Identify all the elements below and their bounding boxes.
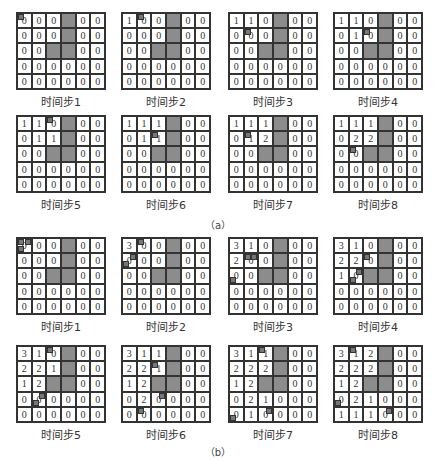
cell-value: 1 [156,118,161,129]
agent-marker-icon [138,14,144,20]
grid-cell: 1 [229,116,244,131]
obstacle-cell [273,146,288,161]
cell-value: 2 [36,363,41,374]
step-label: 时间步3 [228,93,318,109]
cell-value: 0 [234,76,239,87]
cell-value: 0 [368,240,373,251]
grid-cell: 0 [17,59,32,74]
grid-cell: 0 [195,299,210,314]
cell-value: 0 [80,148,85,159]
cell-value: 2 [234,255,239,266]
cell-value: 0 [412,240,417,251]
grid-cell: 0 [407,346,422,361]
grid-cell: 0 [61,59,76,74]
cell-value: 0 [278,179,283,190]
agent-marker-icon [364,29,370,35]
grid-cell: 0 [181,162,196,177]
panel_a-grid-step-5: 11000011000000000000000000 [16,115,106,193]
grid-cell: 0 [407,28,422,43]
cell-value: 0 [185,270,190,281]
cell-value: 0 [397,30,402,41]
agent-marker-icon [18,246,24,252]
grid-cell: 0 [76,361,91,376]
grid-cell: 0 [61,392,76,407]
cell-value: 0 [397,409,402,420]
grid-cell: 0 [244,74,259,89]
grid-cell: 0 [393,131,408,146]
grid-cell: 0 [122,146,137,161]
grid-cell: 2 [32,361,47,376]
agent-marker-icon [33,400,39,406]
cell-value: 0 [234,394,239,405]
cell-value: 2 [248,378,253,389]
grid-cell: 0 [302,13,317,28]
cell-value: 0 [171,394,176,405]
grid-cell: 0 [122,162,137,177]
cell-value: 0 [80,394,85,405]
step-label: 时间步5 [16,196,106,212]
cell-value: 0 [66,61,71,72]
cell-value: 0 [156,409,161,420]
cell-value: 0 [339,45,344,56]
grid-cell: 0 [258,13,273,28]
grid-cell: 2 [229,253,244,268]
grid-cell: 0 [334,74,349,89]
grid-cell: 3 [17,346,32,361]
grid-cell: 0 [288,146,303,161]
cell-value: 0 [383,301,388,312]
cell-value: 1 [141,133,146,144]
cell-value: 0 [171,76,176,87]
grid-cell: 0 [363,162,378,177]
grid-cell: 1 [17,376,32,391]
cell-value: 0 [412,45,417,56]
cell-value: 0 [368,61,373,72]
cell-value: 0 [66,301,71,312]
cell-value: 0 [307,270,312,281]
grid-cell: 0 [349,177,364,192]
grid-cell: 0 [195,177,210,192]
grid-cell: 0 [122,299,137,314]
cell-value: 0 [292,240,297,251]
cell-value: 0 [397,378,402,389]
grid-cell: 0 [17,162,32,177]
obstacle-cell [378,361,393,376]
cell-value: 0 [95,15,100,26]
cell-value: 0 [307,118,312,129]
grid-cell: 0 [393,146,408,161]
cell-value: 0 [80,133,85,144]
cell-value: 0 [185,30,190,41]
grid-cell: 0 [195,268,210,283]
grid-cell: 0 [363,177,378,192]
cell-value: 2 [353,363,358,374]
grid-cell: 1 [363,392,378,407]
agent-marker-icon [386,408,392,414]
grid-cell: 0 [349,268,364,283]
obstacle-cell [46,376,61,391]
grid-cell: 0 [244,146,259,161]
cell-value: 3 [127,240,132,251]
cell-value: 1 [234,15,239,26]
cell-value: 0 [263,164,268,175]
grid-cell: 0 [122,43,137,58]
grid-cell: 0 [407,43,422,58]
grid-cell: 0 [32,392,47,407]
cell-value: 0 [397,148,402,159]
grid-cell: 0 [122,28,137,43]
grid-cell: 0 [61,284,76,299]
caption-b: （b） [0,444,436,459]
grid-cell: 2 [122,361,137,376]
cell-value: 0 [292,363,297,374]
cell-value: 0 [156,240,161,251]
grid-cell: 0 [137,268,152,283]
panel_a-grid-step-7: 11100012000000000000000000 [228,115,318,193]
cell-value: 0 [51,15,56,26]
grid-cell: 0 [32,268,47,283]
grid-cell: 0 [181,392,196,407]
grid-cell: 0 [378,392,393,407]
cell-value: 0 [412,30,417,41]
cell-value: 0 [127,45,132,56]
cell-value: 0 [263,301,268,312]
cell-value: 1 [368,409,373,420]
grid-cell: 0 [407,59,422,74]
obstacle-cell [363,268,378,283]
